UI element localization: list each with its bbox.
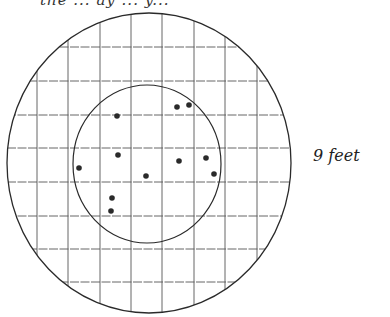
dot-marker — [203, 155, 209, 161]
figure: the ... ay ... y... 9 feet — [0, 0, 390, 317]
dimension-label: 9 feet — [313, 146, 360, 165]
dot-marker — [115, 152, 121, 158]
dot-marker — [176, 158, 182, 164]
outer-circle — [7, 13, 291, 313]
inner-circle — [73, 85, 221, 243]
dot-marker — [143, 173, 149, 179]
dots — [76, 102, 217, 214]
dot-marker — [114, 113, 120, 119]
dot-marker — [108, 208, 114, 214]
dot-marker — [109, 195, 115, 201]
dot-marker — [76, 165, 82, 171]
grid-lines — [7, 13, 291, 313]
dot-marker — [211, 171, 217, 177]
dot-marker — [186, 102, 192, 108]
dot-marker — [174, 104, 180, 110]
